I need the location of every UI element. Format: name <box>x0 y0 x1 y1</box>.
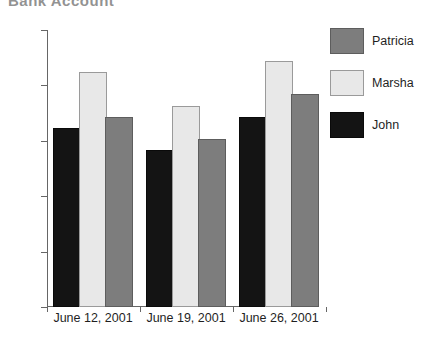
bar-marsha <box>172 106 200 307</box>
bar-patricia <box>198 139 226 307</box>
legend-swatch-john <box>330 112 364 138</box>
chart-legend: PatriciaMarshaJohn <box>330 28 424 154</box>
legend-item-marsha[interactable]: Marsha <box>330 70 424 96</box>
y-axis-line <box>47 30 48 307</box>
y-axis-tick <box>41 85 47 86</box>
x-axis-tick <box>326 307 327 312</box>
legend-label: John <box>372 118 399 132</box>
x-axis-tick <box>47 307 48 312</box>
legend-item-patricia[interactable]: Patricia <box>330 28 424 54</box>
bar-patricia <box>291 94 319 307</box>
bar-group <box>146 30 226 307</box>
y-axis-tick <box>41 196 47 197</box>
y-axis-tick <box>41 30 47 31</box>
legend-label: Marsha <box>372 76 414 90</box>
bar-group <box>53 30 133 307</box>
bar-marsha <box>79 72 107 307</box>
bar-john <box>53 128 81 307</box>
y-axis-tick <box>41 252 47 253</box>
bar-patricia <box>105 117 133 307</box>
x-axis-category-label: June 12, 2001 <box>53 311 132 325</box>
x-axis-tick <box>233 307 234 312</box>
bar-john <box>239 117 267 307</box>
x-axis-tick <box>140 307 141 312</box>
bar-group <box>239 30 319 307</box>
x-axis-category-label: June 26, 2001 <box>239 311 318 325</box>
legend-swatch-patricia <box>330 28 364 54</box>
x-axis-category-label: June 19, 2001 <box>146 311 225 325</box>
legend-item-john[interactable]: John <box>330 112 424 138</box>
plot-area <box>47 30 315 307</box>
bar-marsha <box>265 61 293 307</box>
legend-swatch-marsha <box>330 70 364 96</box>
legend-label: Patricia <box>372 34 414 48</box>
chart-title: Bank Account <box>8 0 114 6</box>
bar-john <box>146 150 174 307</box>
y-axis-tick <box>41 141 47 142</box>
